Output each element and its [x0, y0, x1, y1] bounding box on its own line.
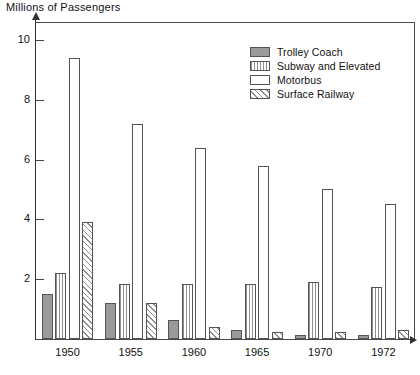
legend-swatch-icon: [250, 75, 270, 85]
bar-chart: Millions of Passengers 246810 1950195519…: [0, 0, 420, 375]
legend-item: Trolley Coach: [250, 45, 410, 58]
legend-item-label: Surface Railway: [277, 88, 354, 100]
y-axis-label: 8: [4, 93, 30, 105]
legend-swatch-icon: [250, 89, 270, 99]
legend-swatch-icon: [250, 61, 270, 71]
y-axis-arrow-icon: [32, 12, 40, 20]
bar: [132, 124, 143, 339]
bar: [322, 189, 333, 339]
bar: [358, 335, 369, 339]
bar: [55, 273, 66, 339]
bar: [398, 330, 409, 339]
bar: [295, 335, 306, 339]
chart-legend: Trolley CoachSubway and ElevatedMotorbus…: [250, 45, 410, 101]
bar: [42, 294, 53, 339]
legend-item-label: Motorbus: [277, 74, 322, 86]
legend-swatch-icon: [250, 47, 270, 57]
bar: [146, 303, 157, 339]
x-axis-label: 1970: [308, 346, 332, 358]
legend-item-label: Trolley Coach: [277, 46, 343, 58]
x-axis-label: 1955: [119, 346, 143, 358]
chart-title: Millions of Passengers: [6, 1, 120, 13]
bar: [119, 284, 130, 339]
y-axis-label: 4: [4, 212, 30, 224]
bar: [245, 284, 256, 339]
legend-item: Subway and Elevated: [250, 59, 410, 72]
bar: [195, 148, 206, 339]
bar: [385, 204, 396, 339]
bar: [231, 330, 242, 339]
bar: [82, 222, 93, 339]
bar: [272, 332, 283, 339]
bar: [69, 58, 80, 339]
bar: [308, 282, 319, 339]
bar: [182, 284, 193, 339]
legend-item: Motorbus: [250, 73, 410, 86]
x-axis-label: 1960: [182, 346, 206, 358]
y-axis-label: 6: [4, 153, 30, 165]
bar: [258, 166, 269, 339]
bar: [105, 303, 116, 339]
x-axis-label: 1965: [245, 346, 269, 358]
legend-item-label: Subway and Elevated: [277, 60, 380, 72]
bar: [168, 320, 179, 339]
bar: [335, 332, 346, 339]
legend-item: Surface Railway: [250, 87, 410, 100]
x-axis-label: 1950: [55, 346, 79, 358]
x-axis-label: 1972: [371, 346, 395, 358]
bar: [371, 287, 382, 339]
bar: [209, 327, 220, 339]
y-axis-label: 10: [4, 33, 30, 45]
y-axis-label: 2: [4, 272, 30, 284]
